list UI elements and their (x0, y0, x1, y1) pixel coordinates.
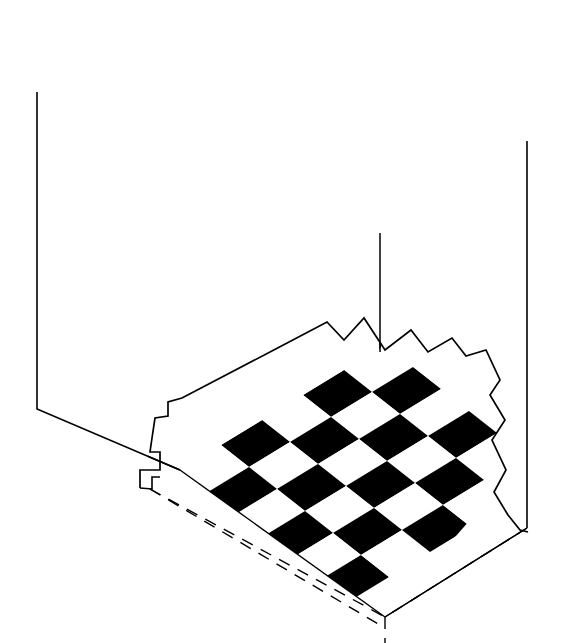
box-illustration (0, 0, 569, 643)
figure-root (0, 0, 569, 643)
